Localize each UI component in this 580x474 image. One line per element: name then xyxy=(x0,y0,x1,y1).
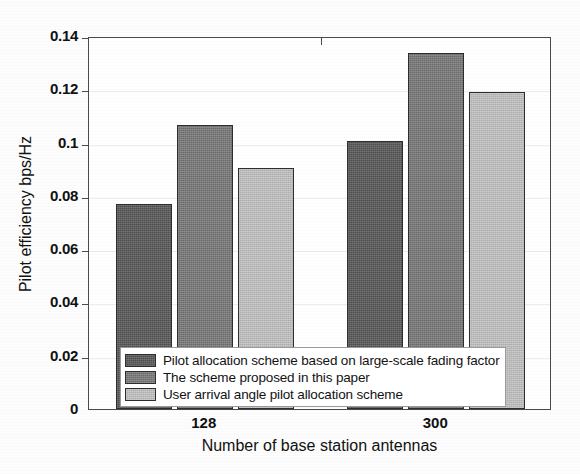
legend-swatch xyxy=(125,354,156,367)
legend-label: Pilot allocation scheme based on large-s… xyxy=(163,353,500,368)
legend-label: User arrival angle pilot allocation sche… xyxy=(163,387,403,402)
legend-item: The scheme proposed in this paper xyxy=(125,369,500,385)
bar-chart-figure: Pilot allocation scheme based on large-s… xyxy=(0,0,580,474)
y-axis-tick xyxy=(82,198,89,199)
y-axis-tick-label: 0.04 xyxy=(0,293,78,310)
y-axis-tick xyxy=(82,251,89,252)
y-axis-tick-label: 0.02 xyxy=(0,347,78,364)
y-axis-tick xyxy=(82,38,89,39)
y-axis-tick xyxy=(82,358,89,359)
y-axis-tick xyxy=(82,91,89,92)
y-axis-tick-label: 0.12 xyxy=(0,80,78,97)
legend-swatch xyxy=(125,371,156,384)
legend-item: Pilot allocation scheme based on large-s… xyxy=(125,352,500,368)
x-axis-title: Number of base station antennas xyxy=(88,437,551,455)
x-axis-category-label: 128 xyxy=(191,414,216,431)
y-axis-tick xyxy=(82,145,89,146)
legend-swatch xyxy=(125,388,156,401)
legend-item: User arrival angle pilot allocation sche… xyxy=(125,386,500,402)
legend-label: The scheme proposed in this paper xyxy=(163,370,370,385)
chart-legend: Pilot allocation scheme based on large-s… xyxy=(120,347,506,407)
y-axis-tick-label: 0.1 xyxy=(0,134,78,151)
y-axis-tick xyxy=(82,304,89,305)
x-axis-top-tick xyxy=(321,38,322,45)
y-axis-tick-label: 0.08 xyxy=(0,187,78,204)
y-axis-title: Pilot efficiency bps/Hz xyxy=(17,124,35,304)
y-axis-tick-label: 0.14 xyxy=(0,27,78,44)
plot-area: Pilot allocation scheme based on large-s… xyxy=(88,37,551,410)
y-axis-tick-label: 0.06 xyxy=(0,240,78,257)
x-axis-category-label: 300 xyxy=(423,414,448,431)
y-axis-tick-label: 0 xyxy=(0,400,78,417)
